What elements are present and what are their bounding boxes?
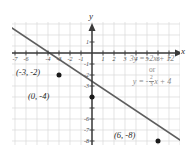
y-tick-label-neg8: -8 (84, 138, 89, 144)
y-axis-label: y (89, 12, 93, 21)
data-point-0-neg4 (90, 95, 95, 100)
equation-annotations: 3y = -2x + 12 or y = -23x + 4 (112, 55, 192, 91)
x-tick-label-neg4: -4 (46, 56, 51, 62)
y-tick-label-neg2: -2 (84, 72, 89, 78)
x-tick-label-neg6: -6 (24, 56, 29, 62)
equation-suffix: x + 4 (154, 77, 171, 86)
x-tick-label-neg7: -7 (13, 56, 18, 62)
y-tick-label-neg3: -3 (84, 83, 89, 89)
point-label-0-neg4: (0, -4) (28, 92, 49, 101)
x-tick-label-neg2: -2 (68, 56, 73, 62)
y-tick-label-neg7: -7 (84, 127, 89, 133)
graph-screenshot: -7 -6 -4 -3 -2 -1 1 2 3 4 5 6 7 1 -1 -2 … (0, 0, 195, 155)
point-label-6-neg8: (6, -8) (114, 131, 135, 140)
point-label-neg3-neg2: (-3, -2) (16, 68, 40, 77)
equation-connector: or (112, 66, 192, 74)
equation-standard-form: 3y = -2x + 12 (112, 55, 192, 63)
y-tick-label-1: 1 (86, 39, 89, 45)
x-tick-label-neg1: -1 (79, 56, 84, 62)
y-tick-label-neg6: -6 (84, 116, 89, 122)
data-point-6-neg8 (156, 139, 161, 144)
data-point-neg3-neg2 (57, 73, 62, 78)
x-tick-label-1: 1 (102, 56, 105, 62)
y-tick-label-neg1: -1 (84, 61, 89, 67)
equation-prefix: y = - (133, 77, 149, 86)
equation-slope-intercept-form: y = -23x + 4 (112, 76, 192, 89)
slope-denominator: 3 (149, 81, 154, 88)
x-tick-label-neg3: -3 (57, 56, 62, 62)
slope-fraction: 23 (149, 75, 154, 88)
